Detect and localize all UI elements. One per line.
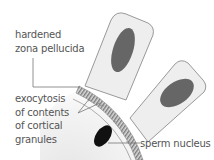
upper-cell (85, 13, 153, 100)
label-line: zona pellucida (15, 42, 84, 56)
label-line: of cortical (15, 119, 69, 133)
label-exocytosis-cortical-granules: exocytosis of contents of cortical granu… (15, 92, 69, 146)
label-line: hardened (15, 28, 84, 42)
label-line: sperm nucleus (140, 137, 211, 151)
lower-cell (130, 61, 206, 142)
label-line: granules (15, 133, 69, 147)
label-line: exocytosis (15, 92, 69, 106)
label-line: of contents (15, 106, 69, 120)
label-sperm-nucleus: sperm nucleus (140, 137, 211, 151)
fertilization-diagram: hardened zona pellucida exocytosis of co… (0, 0, 214, 160)
leader-zona (33, 58, 80, 87)
label-hardened-zona-pellucida: hardened zona pellucida (15, 28, 84, 55)
